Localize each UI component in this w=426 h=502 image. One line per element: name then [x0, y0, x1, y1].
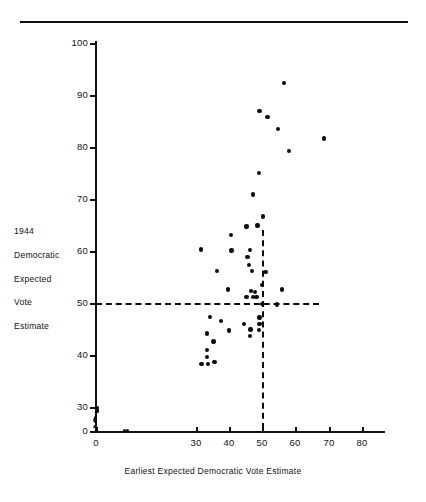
- data-point: [265, 115, 269, 119]
- data-point: [215, 269, 219, 273]
- data-point: [245, 255, 249, 259]
- data-point: [248, 334, 252, 338]
- data-point: [322, 136, 326, 140]
- axis-break-icon: [90, 412, 102, 428]
- data-point: [212, 360, 216, 364]
- data-point: [205, 355, 209, 359]
- data-point: [227, 328, 231, 332]
- data-point: [219, 319, 223, 323]
- data-point: [257, 328, 261, 332]
- data-point: [253, 290, 257, 294]
- x-tick-label-30: 30: [181, 437, 211, 448]
- y-tick-label-100: 100: [56, 38, 88, 48]
- y-tick-100: [90, 43, 96, 45]
- y-tick-label-0: 0: [56, 426, 88, 436]
- x-tick-0: [96, 427, 98, 432]
- x-axis-line: [95, 431, 385, 433]
- y-tick-label-60: 60: [56, 246, 88, 256]
- data-point: [280, 287, 284, 291]
- data-point: [251, 192, 255, 196]
- data-point: [199, 247, 203, 251]
- data-point: [276, 127, 280, 131]
- data-point: [257, 315, 261, 319]
- data-point: [254, 295, 258, 299]
- data-point: [282, 81, 286, 85]
- data-point: [244, 295, 248, 299]
- data-point: [242, 322, 246, 326]
- y-tick-40: [90, 355, 96, 357]
- y-tick-label-70: 70: [56, 194, 88, 204]
- data-point: [229, 233, 233, 237]
- scatter-plot-figure: 1944 Democratic Expected Vote Estimate 1…: [0, 0, 426, 502]
- x-tick-label-50: 50: [247, 437, 277, 448]
- x-tick-label-40: 40: [214, 437, 244, 448]
- x-tick-label-60: 60: [280, 437, 310, 448]
- data-point: [263, 270, 267, 274]
- header-rule: [20, 21, 408, 23]
- data-point: [261, 214, 265, 218]
- data-point: [257, 322, 261, 326]
- x-tick-label-0: 0: [81, 437, 111, 448]
- data-point: [244, 224, 248, 228]
- y-tick-label-50: 50: [56, 298, 88, 308]
- data-point: [248, 248, 252, 252]
- x-tick-60: [295, 427, 297, 432]
- x-tick-30: [196, 427, 198, 432]
- y-tick-80: [90, 147, 96, 149]
- x-tick-40: [229, 427, 231, 432]
- data-point: [226, 287, 230, 291]
- data-point: [257, 109, 261, 113]
- data-point: [205, 331, 209, 335]
- reference-line-horizontal-50: [96, 303, 319, 305]
- y-axis-line: [95, 41, 97, 433]
- data-point: [250, 269, 254, 273]
- y-axis-title-line-1: 1944: [14, 226, 76, 236]
- x-tick-70: [329, 427, 331, 432]
- y-tick-label-40: 40: [56, 350, 88, 360]
- data-point: [208, 315, 212, 319]
- data-point: [229, 248, 233, 252]
- data-point: [199, 362, 203, 366]
- x-axis-caption: Earliest Expected Democratic Vote Estima…: [0, 466, 426, 476]
- data-point: [287, 149, 291, 153]
- y-tick-label-30: 30: [56, 402, 88, 412]
- data-point: [247, 263, 251, 267]
- data-point: [255, 223, 259, 227]
- data-point: [205, 348, 209, 352]
- x-tick-label-70: 70: [314, 437, 344, 448]
- y-tick-label-90: 90: [56, 90, 88, 100]
- y-axis-title-line-3: Expected: [14, 274, 76, 284]
- y-tick-60: [90, 251, 96, 253]
- x-tick-80: [362, 427, 364, 432]
- data-point: [206, 362, 210, 366]
- data-point: [275, 302, 279, 306]
- y-tick-70: [90, 199, 96, 201]
- reference-line-vertical-50: [262, 230, 264, 429]
- x-tick-label-80: 80: [347, 437, 377, 448]
- y-axis-title-line-5: Estimate: [14, 321, 76, 331]
- y-tick-90: [90, 95, 96, 97]
- data-point: [248, 327, 252, 331]
- y-tick-label-80: 80: [56, 142, 88, 152]
- data-point: [211, 339, 215, 343]
- data-point: [257, 171, 261, 175]
